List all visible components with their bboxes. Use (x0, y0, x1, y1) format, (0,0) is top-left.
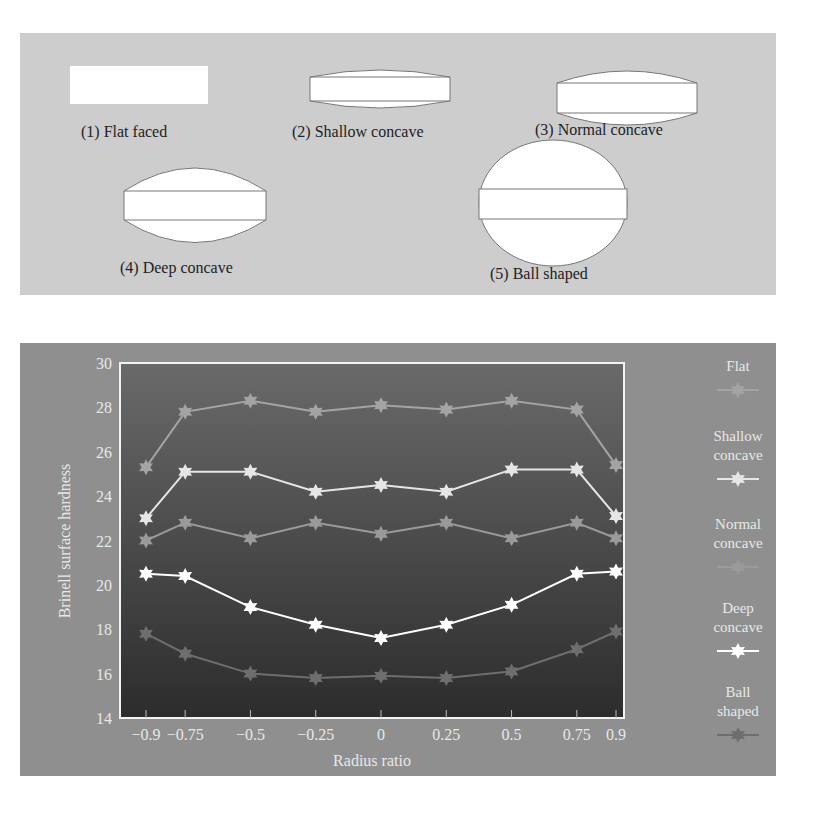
legend-marker-icon (713, 725, 763, 745)
flat-faced-tablet-icon (70, 66, 210, 106)
x-axis-label: Radius ratio (333, 752, 411, 769)
y-tick-label: 16 (96, 666, 112, 683)
line-chart: 141618202224262830 −0.9−0.75−0.5−0.2500.… (20, 343, 660, 776)
shape-label-flat: (1) Flat faced (81, 123, 167, 141)
shallow-concave-tablet-icon (308, 65, 452, 111)
normal-concave-tablet-icon (555, 67, 699, 127)
legend-label: Shallow (680, 427, 796, 446)
legend-label: Deep (680, 599, 796, 618)
legend-label: Normal (680, 515, 796, 534)
x-tick-label: 0.75 (563, 726, 591, 743)
y-tick-label: 20 (96, 577, 112, 594)
y-tick-label: 22 (96, 533, 112, 550)
legend-item: Deepconcave (680, 599, 796, 661)
y-axis-ticks: 141618202224262830 (96, 355, 112, 727)
tablet-shapes-panel: (1) Flat faced (2) Shallow concave (3) N… (20, 33, 776, 295)
legend-item: Shallowconcave (680, 427, 796, 489)
y-tick-label: 14 (96, 710, 112, 727)
y-tick-label: 24 (96, 488, 112, 505)
y-axis-label: Brinell surface hardness (56, 464, 73, 619)
legend-item: Ballshaped (680, 683, 796, 745)
x-tick-label: −0.5 (236, 726, 265, 743)
x-tick-label: 0.25 (432, 726, 460, 743)
legend-label: Ball (680, 683, 796, 702)
legend-marker-icon (713, 557, 763, 577)
ball-shaped-tablet-icon (477, 138, 629, 268)
shape-label-deep: (4) Deep concave (120, 259, 233, 277)
legend-label: concave (680, 618, 796, 637)
legend-label: Flat (680, 357, 796, 376)
y-tick-label: 18 (96, 621, 112, 638)
plot-area (120, 363, 624, 718)
x-tick-label: 0.5 (502, 726, 522, 743)
legend-marker-icon (713, 380, 763, 400)
y-tick-label: 28 (96, 399, 112, 416)
legend-marker-icon (713, 469, 763, 489)
legend-item: Normalconcave (680, 515, 796, 577)
x-tick-label: 0.9 (606, 726, 626, 743)
shape-label-ball: (5) Ball shaped (490, 265, 588, 283)
legend-item: Flat (680, 357, 796, 400)
deep-concave-tablet-icon (122, 163, 268, 247)
y-tick-label: 26 (96, 444, 112, 461)
legend-label: concave (680, 534, 796, 553)
shape-label-normal: (3) Normal concave (535, 121, 663, 139)
y-tick-label: 30 (96, 355, 112, 372)
legend-label: concave (680, 446, 796, 465)
hardness-chart-panel: 141618202224262830 −0.9−0.75−0.5−0.2500.… (20, 343, 776, 776)
x-tick-label: −0.25 (297, 726, 334, 743)
x-tick-label: 0 (377, 726, 385, 743)
legend-marker-icon (713, 641, 763, 661)
shape-label-shallow: (2) Shallow concave (292, 123, 424, 141)
x-tick-label: −0.9 (131, 726, 160, 743)
legend-label: shaped (680, 702, 796, 721)
x-tick-label: −0.75 (167, 726, 204, 743)
